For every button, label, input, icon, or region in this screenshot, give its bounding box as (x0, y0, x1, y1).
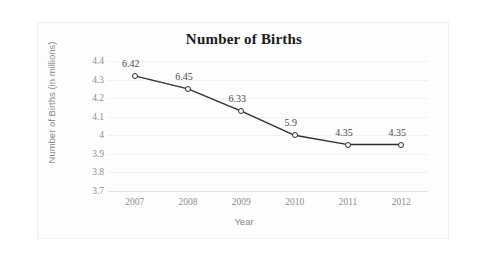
x-axis-title: Year (38, 216, 450, 227)
data-point-marker (185, 86, 191, 92)
data-point-label: 6.33 (229, 93, 247, 104)
y-tick-label: 4.1 (92, 112, 104, 122)
x-tick-label: 2009 (232, 197, 251, 207)
data-point-marker (132, 73, 138, 79)
gridline (108, 191, 428, 192)
x-tick-label: 2010 (285, 197, 304, 207)
y-tick-label: 3.7 (92, 186, 104, 196)
series-line (108, 61, 428, 191)
data-point-label: 6.45 (175, 71, 193, 82)
y-axis-title: Number of Births (in millions) (46, 28, 57, 178)
data-point-label: 5.9 (284, 117, 297, 128)
data-point-marker (292, 132, 298, 138)
data-point-marker (398, 142, 404, 148)
chart-title: Number of Births (38, 31, 450, 48)
y-tick-label: 4.3 (92, 75, 104, 85)
y-tick-label: 3.9 (92, 149, 104, 159)
y-tick-label: 4.2 (92, 93, 104, 103)
y-tick-label: 4 (99, 130, 104, 140)
data-point-marker (345, 142, 351, 148)
chart-frame: Number of Births Number of Births (in mi… (37, 22, 449, 239)
data-point-label: 4.35 (335, 127, 353, 138)
x-tick-label: 2012 (392, 197, 411, 207)
data-point-label: 4.35 (389, 127, 407, 138)
chart-page: Number of Births Number of Births (in mi… (0, 0, 477, 263)
plot-area: 4.44.34.24.143.93.83.7 20072008200920102… (108, 61, 428, 191)
x-tick-label: 2011 (339, 197, 358, 207)
y-tick-label: 4.4 (92, 56, 104, 66)
data-point-label: 6.42 (122, 58, 140, 69)
y-tick-label: 3.8 (92, 167, 104, 177)
x-tick-label: 2007 (125, 197, 144, 207)
x-tick-label: 2008 (179, 197, 198, 207)
